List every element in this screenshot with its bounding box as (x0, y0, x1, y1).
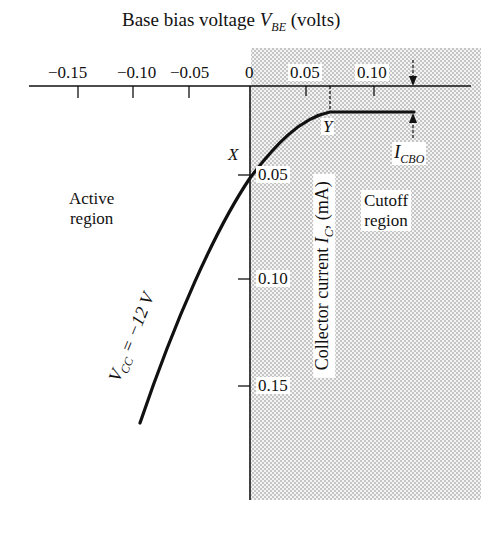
cutoff-region-line1: Cutoff (364, 192, 408, 209)
x-axis-title-text: Base bias voltage (122, 9, 255, 30)
y-axis-title: Collector current IC, (mA) (313, 174, 335, 378)
x-tick-label: −0.15 (48, 64, 87, 81)
y-tick-label: 0.15 (256, 377, 290, 394)
x-axis-title: Base bias voltage VBE (volts) (122, 10, 340, 33)
x-tick-label: 0.10 (355, 64, 389, 81)
x-tick-label: 0 (245, 64, 254, 81)
cutoff-region-line2: region (364, 212, 408, 229)
point-x-label: X (228, 146, 238, 163)
active-region-line1: Active (69, 190, 114, 207)
x-tick-label: −0.10 (117, 64, 156, 81)
icbo-label: ICBO (392, 142, 426, 165)
x-tick-label: −0.05 (170, 64, 209, 81)
y-tick-label: 0.05 (256, 166, 290, 183)
x-tick-label: 0.05 (288, 64, 322, 81)
active-region-label: Active region (69, 190, 114, 227)
x-axis-symbol: VBE (260, 9, 286, 30)
y-tick-label: 0.10 (256, 270, 290, 287)
point-y-label: Y (321, 118, 334, 135)
active-region-line2: region (69, 210, 114, 227)
x-axis-unit: (volts) (291, 9, 341, 30)
cutoff-region-label: Cutoff region (361, 190, 411, 231)
